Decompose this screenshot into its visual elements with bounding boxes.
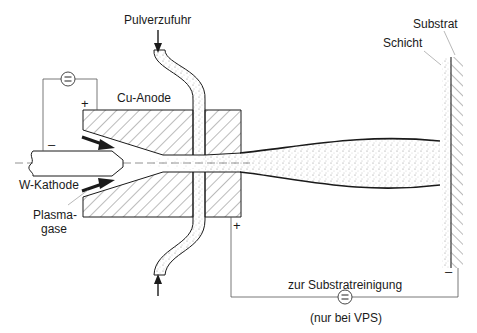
minus-top: –	[48, 138, 55, 151]
substrate-leader	[444, 31, 455, 55]
label-plasma-gas-2: gase	[41, 223, 67, 235]
dc-source-bottom-icon	[338, 290, 352, 304]
minus-bottom: –	[445, 265, 452, 278]
w-cathode	[29, 151, 123, 176]
label-w-cathode: W-Kathode	[19, 179, 79, 191]
powder-arrow-up	[154, 274, 162, 296]
plus-top: +	[81, 97, 89, 110]
label-substrate: Substrat	[413, 18, 458, 30]
plus-bottom: +	[233, 219, 241, 232]
label-plasma-gas-1: Plasma-	[33, 209, 77, 221]
label-vps-only: (nur bei VPS)	[310, 312, 382, 324]
dc-source-top-icon	[61, 72, 75, 86]
coating-layer	[442, 58, 451, 268]
substrate	[451, 57, 463, 268]
cu-anode-bottom	[83, 172, 241, 217]
label-substrate-cleaning: zur Substratreinigung	[288, 279, 402, 291]
label-powder-feed: Pulverzufuhr	[124, 14, 191, 26]
layer-leader	[424, 51, 441, 65]
label-cu-anode: Cu-Anode	[117, 92, 171, 104]
label-layer: Schicht	[383, 37, 422, 49]
